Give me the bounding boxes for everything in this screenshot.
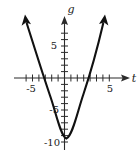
coordinate-plot: g t -5 5 5 -5 -10 — [0, 0, 140, 155]
x-tick-label-pos5: 5 — [107, 83, 113, 94]
x-tick-label-neg5: -5 — [26, 83, 36, 94]
y-tick-label-neg5: -5 — [49, 104, 59, 115]
t-axis-label: t — [132, 72, 137, 85]
y-tick-label-neg10: -10 — [44, 137, 60, 148]
y-tick-label-pos5: 5 — [51, 40, 57, 51]
g-axis-label: g — [67, 3, 74, 16]
graph-figure: g t -5 5 5 -5 -10 — [0, 0, 140, 155]
t-axis-group — [14, 75, 130, 82]
